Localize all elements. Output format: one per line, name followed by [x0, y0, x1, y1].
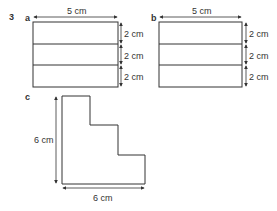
part-c-label: c	[25, 92, 30, 102]
part-c-height-label: 6 cm	[34, 135, 54, 145]
part-b-label: b	[151, 13, 157, 23]
part-a-row-2-label: 2 cm	[124, 51, 144, 61]
part-a-label: a	[25, 13, 30, 23]
part-b-width-label: 5 cm	[192, 6, 212, 16]
part-a-width-label: 5 cm	[67, 6, 87, 16]
shape-c-staircase	[62, 96, 145, 184]
part-b-row-1-label: 2 cm	[249, 29, 269, 39]
part-b-row-3-label: 2 cm	[249, 72, 269, 82]
part-b-row-2-label: 2 cm	[249, 51, 269, 61]
shape-b-rectangle	[159, 22, 242, 87]
part-a-row-1-label: 2 cm	[124, 29, 144, 39]
part-a-row-3-label: 2 cm	[124, 72, 144, 82]
shape-a-rectangle	[33, 22, 118, 87]
question-number: 3	[9, 12, 14, 22]
part-c-width-label: 6 cm	[93, 193, 113, 203]
